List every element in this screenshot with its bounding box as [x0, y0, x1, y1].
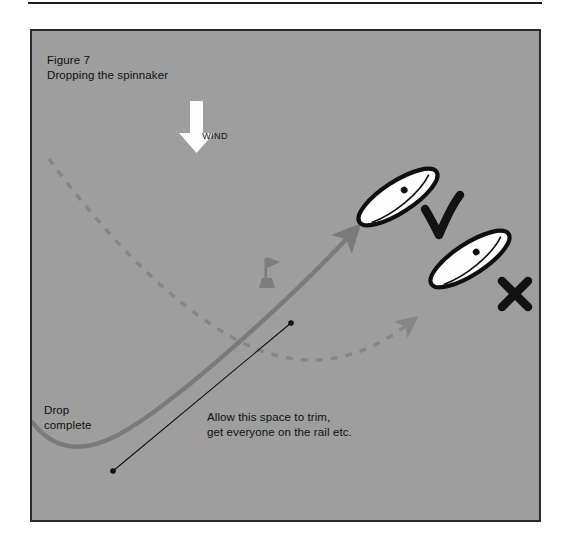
space-to-trim-span — [110, 320, 294, 474]
figure-caption-line-2: Dropping the spinnaker — [47, 69, 168, 81]
drop-complete-label: Dropcomplete — [44, 403, 91, 433]
figure-caption-line-1: Figure 7 — [47, 54, 90, 66]
drop-complete-line-2: complete — [44, 419, 91, 431]
incorrect-course-track — [49, 159, 412, 360]
cross-mark-icon — [502, 281, 528, 307]
wind-label: WIND — [185, 131, 245, 141]
check-mark-icon — [425, 195, 460, 235]
page-top-rule — [28, 2, 542, 4]
figure-panel: Figure 7Dropping the spinnaker WIND Drop… — [30, 29, 541, 522]
racing-mark-buoy — [259, 257, 280, 288]
trim-note-label: Allow this space to trim,get everyone on… — [207, 410, 352, 440]
figure-page: Figure 7Dropping the spinnaker WIND Drop… — [0, 0, 570, 553]
wind-direction-arrow — [179, 101, 214, 153]
figure-caption: Figure 7Dropping the spinnaker — [47, 53, 168, 83]
drop-complete-line-1: Drop — [44, 404, 69, 416]
sailing-diagram — [32, 31, 539, 520]
trim-note-line-2: get everyone on the rail etc. — [207, 426, 352, 438]
trim-note-line-1: Allow this space to trim, — [207, 411, 330, 423]
